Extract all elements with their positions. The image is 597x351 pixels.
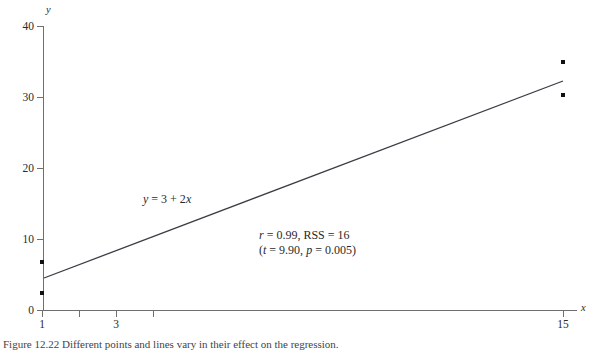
data-point: [40, 291, 44, 295]
r-value-text: = 0.99, RSS = 16: [264, 228, 350, 242]
equation-x-symbol: x: [186, 192, 191, 206]
data-point: [40, 260, 44, 264]
statistics-annotation: r = 0.99, RSS = 16 (t = 9.90, p = 0.005): [259, 228, 356, 258]
equation-annotation: y = 3 + 2x: [143, 193, 191, 205]
figure-caption: Figure 12.22 Different points and lines …: [3, 338, 563, 351]
t-value-text: = 9.90,: [266, 243, 306, 257]
data-point: [561, 93, 565, 97]
statistics-line-2: (t = 9.90, p = 0.005): [259, 243, 356, 258]
data-point: [561, 60, 565, 64]
equation-body: = 3 + 2: [148, 192, 186, 206]
p-value-text: = 0.005): [312, 243, 356, 257]
statistics-line-1: r = 0.99, RSS = 16: [259, 228, 356, 243]
